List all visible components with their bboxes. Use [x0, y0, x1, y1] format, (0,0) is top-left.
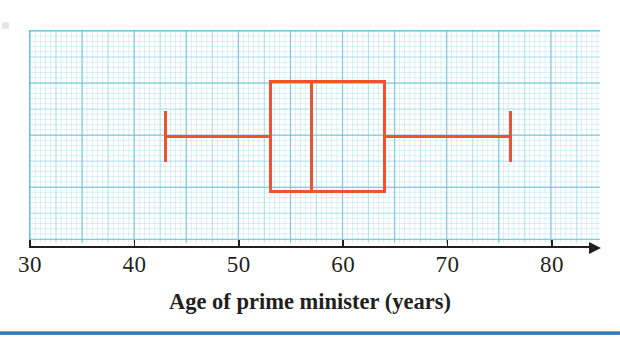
x-axis-line	[30, 246, 592, 248]
right-whisker-line	[385, 135, 510, 138]
figure-canvas: 304050607080 Age of prime minister (year…	[0, 0, 620, 347]
x-tick-60	[342, 240, 344, 248]
box-top-edge	[270, 80, 386, 83]
box-bottom-edge	[270, 190, 386, 193]
lower-quartile-edge	[269, 80, 272, 193]
x-tick-label-50: 50	[209, 252, 269, 278]
x-tick-label-80: 80	[522, 252, 582, 278]
left-whisker-line	[166, 135, 270, 138]
x-tick-80	[551, 240, 553, 248]
upper-quartile-edge	[383, 80, 386, 193]
x-tick-40	[134, 240, 136, 248]
x-axis-title: Age of prime minister (years)	[0, 289, 620, 315]
x-axis-arrowhead	[589, 242, 601, 254]
x-tick-70	[447, 240, 449, 248]
minimum-whisker-cap	[164, 111, 167, 162]
x-tick-label-30: 30	[0, 252, 60, 278]
x-tick-30	[29, 240, 31, 248]
x-tick-label-70: 70	[418, 252, 478, 278]
x-tick-50	[238, 240, 240, 248]
x-tick-label-40: 40	[104, 252, 164, 278]
x-tick-label-60: 60	[313, 252, 373, 278]
median-line	[310, 80, 313, 193]
page-bottom-rule	[0, 331, 620, 335]
maximum-whisker-cap	[509, 111, 512, 162]
